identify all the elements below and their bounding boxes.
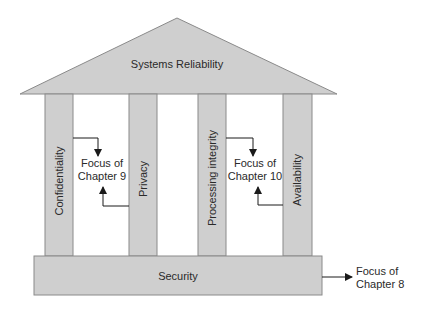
- annotation-line1: Focus of: [223, 157, 287, 170]
- pillar-label-availability: Availability: [291, 154, 303, 206]
- annotation-chapter-9: Focus of Chapter 9: [72, 157, 132, 183]
- annotation-line1: Focus of: [356, 265, 404, 278]
- arrow-confidentiality-to-ch9: [73, 138, 98, 156]
- base-label: Security: [128, 270, 228, 283]
- annotation-line2: Chapter 10: [223, 170, 287, 183]
- roof-label: Systems Reliability: [117, 58, 237, 71]
- annotation-line2: Chapter 8: [356, 278, 404, 291]
- annotation-chapter-10: Focus of Chapter 10: [223, 157, 287, 183]
- arrow-privacy-to-ch9: [103, 187, 129, 206]
- arrow-processing-to-ch10: [226, 138, 253, 156]
- annotation-line2: Chapter 9: [72, 170, 132, 183]
- roof: [20, 18, 337, 94]
- arrow-availability-to-ch10: [258, 187, 283, 205]
- pillar-label-processing-integrity: Processing integrity: [206, 130, 218, 226]
- pillar-label-confidentiality: Confidentiality: [53, 146, 65, 215]
- annotation-line1: Focus of: [72, 157, 132, 170]
- annotation-chapter-8: Focus of Chapter 8: [356, 265, 404, 291]
- pillar-label-privacy: Privacy: [137, 161, 149, 197]
